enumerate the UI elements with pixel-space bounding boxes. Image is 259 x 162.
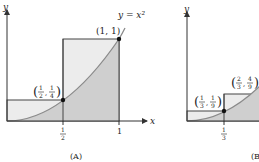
svg-text:3: 3: [222, 134, 226, 141]
point-half-quarter: [61, 98, 65, 102]
svg-text:9: 9: [211, 102, 215, 109]
svg-text:2: 2: [61, 134, 65, 141]
svg-text:2: 2: [237, 75, 241, 82]
caption-a: (A): [70, 152, 82, 161]
svg-text:(: (: [194, 94, 199, 109]
y-axis-label: y: [2, 2, 9, 12]
svg-text:1: 1: [222, 126, 226, 133]
x-axis-label: x: [150, 116, 155, 126]
svg-text:): ): [56, 84, 61, 99]
svg-text:4: 4: [248, 75, 252, 82]
svg-text:,: ,: [45, 89, 47, 97]
point-label-half-quarter: ( 1 2 , 1 4 ): [33, 84, 61, 99]
b-point-label-third-ninth: ( 1 3 , 1 9 ): [194, 94, 222, 109]
svg-text:): ): [254, 75, 259, 90]
svg-text:9: 9: [248, 83, 252, 90]
svg-text:): ): [217, 94, 222, 109]
point-one-one: [117, 37, 121, 41]
svg-text:1: 1: [200, 94, 204, 101]
svg-text:3: 3: [237, 83, 241, 90]
panel-a: y x y = x² (1, 1) ( 1 2 , 1 4 ) 1 2 1 (A…: [2, 2, 155, 161]
point-label-one-one: (1, 1): [96, 26, 120, 36]
curve-label: y = x²: [117, 10, 145, 20]
panel-b: y ( 1 3 , 1 9 ) ( 2 3 , 4 9 ) 1: [183, 4, 259, 161]
svg-text:1: 1: [39, 84, 43, 91]
tick-label-one: 1: [117, 127, 122, 136]
svg-text:1: 1: [61, 126, 65, 133]
tick-label-half: 1 2: [60, 126, 66, 141]
svg-text:(: (: [231, 75, 236, 90]
b-tick-label-third: 1 3: [221, 126, 227, 141]
b-point-label-twothirds-fourninths: ( 2 3 , 4 9 ): [231, 75, 259, 90]
svg-text:3: 3: [200, 102, 204, 109]
b-point-third-ninth: [222, 109, 226, 113]
riemann-sum-diagram: y x y = x² (1, 1) ( 1 2 , 1 4 ) 1 2 1 (A…: [0, 0, 259, 162]
svg-text:,: ,: [243, 80, 245, 88]
svg-text:1: 1: [211, 94, 215, 101]
caption-b: (B: [251, 152, 259, 161]
svg-text:2: 2: [39, 92, 43, 99]
svg-text:4: 4: [50, 92, 54, 99]
b-y-axis-label: y: [183, 4, 190, 14]
svg-text:(: (: [33, 84, 38, 99]
svg-text:,: ,: [206, 99, 208, 107]
svg-text:1: 1: [50, 84, 54, 91]
